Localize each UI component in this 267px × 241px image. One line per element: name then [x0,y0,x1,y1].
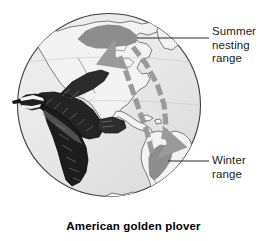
summer-label-line-2: nesting [212,39,250,51]
winter-label-line-1: Winter [212,154,246,166]
winter-label-line-2: range [212,168,242,180]
summer-label-line-1: Summer [212,25,256,37]
figure-caption: American golden plover [0,220,267,232]
summer-nesting-range-label: Summer nesting range [212,25,256,66]
winter-range-label: Winter range [212,154,246,181]
migration-map-figure: Summer nesting range Winter range Americ… [0,0,267,241]
summer-label-line-3: range [212,52,242,64]
